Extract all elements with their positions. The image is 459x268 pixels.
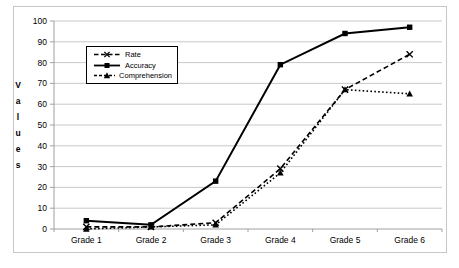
x-category-label: Grade 5 xyxy=(330,235,361,245)
y-tick-label: 0 xyxy=(42,224,47,234)
rate-marker xyxy=(407,51,413,57)
legend-item-comprehension: Comprehension xyxy=(93,71,172,80)
plot-area: 0102030405060708090100Grade 1Grade 2Grad… xyxy=(0,0,459,268)
accuracy-marker xyxy=(278,62,283,67)
y-tick-label: 100 xyxy=(33,16,47,26)
y-tick-label: 60 xyxy=(38,99,48,109)
accuracy-legend-marker xyxy=(93,61,121,70)
legend-item-rate: Rate xyxy=(93,50,172,59)
accuracy-marker xyxy=(84,218,89,223)
y-tick-label: 40 xyxy=(38,141,48,151)
accuracy-marker xyxy=(342,31,347,36)
x-category-label: Grade 6 xyxy=(394,235,425,245)
legend-label-accuracy: Accuracy xyxy=(125,61,156,70)
comprehension-legend-marker xyxy=(93,71,115,80)
rate-legend-marker xyxy=(93,50,121,59)
y-tick-label: 50 xyxy=(38,120,48,130)
x-category-label: Grade 4 xyxy=(265,235,296,245)
y-tick-label: 90 xyxy=(38,37,48,47)
legend-item-accuracy: Accuracy xyxy=(93,61,172,70)
legend-label-rate: Rate xyxy=(125,50,141,59)
x-category-label: Grade 1 xyxy=(71,235,102,245)
legend-label-comprehension: Comprehension xyxy=(119,71,172,80)
legend: Rate Accuracy Comprehension xyxy=(86,46,178,84)
y-tick-label: 80 xyxy=(38,58,48,68)
x-category-label: Grade 2 xyxy=(136,235,167,245)
accuracy-marker xyxy=(407,25,412,30)
accuracy-marker xyxy=(213,178,218,183)
y-tick-label: 30 xyxy=(38,162,48,172)
y-tick-label: 70 xyxy=(38,78,48,88)
y-tick-label: 10 xyxy=(38,203,48,213)
comprehension-marker xyxy=(406,91,413,97)
y-tick-label: 20 xyxy=(38,182,48,192)
chart-figure: Values 0102030405060708090100Grade 1Grad… xyxy=(0,0,459,268)
x-category-label: Grade 3 xyxy=(200,235,231,245)
